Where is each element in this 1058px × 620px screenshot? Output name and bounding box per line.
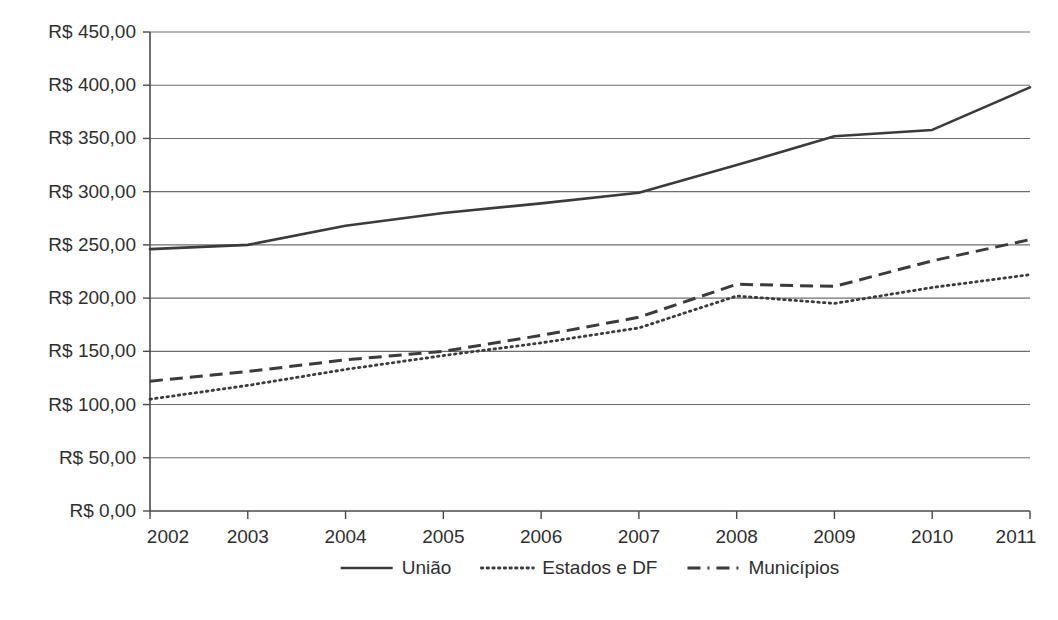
x-tick-label: 2007 — [618, 526, 660, 547]
y-tick-label: R$ 100,00 — [48, 394, 136, 415]
y-tick-label: R$ 350,00 — [48, 127, 136, 148]
x-tick-label: 2010 — [911, 526, 953, 547]
legend-label-uni-o: União — [402, 557, 452, 578]
legend-label-munic-pios: Municípios — [748, 557, 839, 578]
x-tick-marks — [150, 511, 1030, 519]
y-tick-label: R$ 250,00 — [48, 234, 136, 255]
y-tick-label: R$ 50,00 — [59, 447, 136, 468]
y-tick-marks — [143, 32, 150, 511]
x-tick-label: 2008 — [716, 526, 758, 547]
y-axis-tick-labels: R$ 0,00R$ 50,00R$ 100,00R$ 150,00R$ 200,… — [48, 21, 136, 521]
x-tick-label: 2005 — [422, 526, 464, 547]
chart-canvas: R$ 0,00R$ 50,00R$ 100,00R$ 150,00R$ 200,… — [0, 0, 1058, 620]
line-chart: R$ 0,00R$ 50,00R$ 100,00R$ 150,00R$ 200,… — [0, 0, 1058, 620]
x-tick-label: 2011 — [996, 526, 1037, 547]
legend-label-estados-e-df: Estados e DF — [542, 557, 657, 578]
y-tick-label: R$ 400,00 — [48, 74, 136, 95]
y-tick-label: R$ 300,00 — [48, 181, 136, 202]
y-tick-label: R$ 200,00 — [48, 287, 136, 308]
series-line-estados-e-df — [150, 275, 1030, 400]
y-tick-label: R$ 450,00 — [48, 21, 136, 42]
x-tick-label: 2009 — [813, 526, 855, 547]
series-line-uni-o — [150, 87, 1030, 249]
chart-legend: UniãoEstados e DFMunicípios — [341, 557, 840, 578]
grid-lines — [150, 32, 1030, 458]
x-tick-label: 2002 — [147, 526, 189, 547]
series-line-munic-pios — [150, 240, 1030, 382]
y-tick-label: R$ 150,00 — [48, 340, 136, 361]
x-axis-tick-labels: 2002200320042005200620072008200920102011 — [147, 526, 1037, 547]
x-tick-label: 2004 — [324, 526, 367, 547]
x-tick-label: 2006 — [520, 526, 562, 547]
series-layer — [150, 87, 1030, 399]
x-tick-label: 2003 — [227, 526, 269, 547]
y-tick-label: R$ 0,00 — [69, 500, 136, 521]
